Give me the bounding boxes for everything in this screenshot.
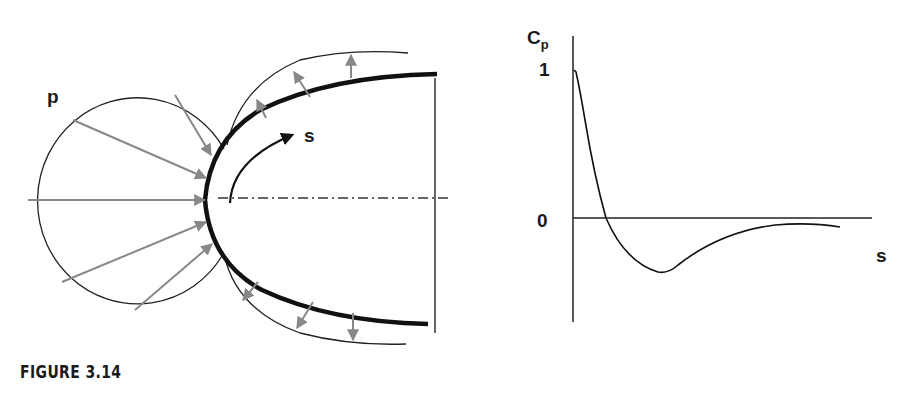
arc-length-arrow	[230, 135, 292, 203]
pressure-envelope-lower	[224, 254, 406, 344]
pressure-distribution-diagram: p s	[28, 52, 450, 345]
figure-caption: FIGURE 3.14	[20, 362, 121, 382]
figure-canvas: p s Cp 1 0 s	[0, 0, 908, 394]
arc-length-label: s	[304, 125, 315, 146]
cp-axis-label: Cp	[527, 27, 549, 52]
pressure-label: p	[47, 86, 59, 107]
y-tick-0: 0	[537, 210, 548, 231]
cp-curve	[574, 70, 840, 272]
y-tick-1: 1	[539, 59, 550, 80]
pressure-envelope-upper	[227, 52, 408, 145]
cp-chart: Cp 1 0 s	[527, 27, 887, 322]
pressure-arrows-inward	[28, 95, 212, 310]
s-axis-label: s	[876, 245, 887, 266]
